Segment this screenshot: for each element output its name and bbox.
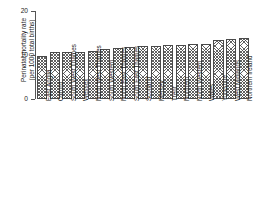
x-axis-tick-label: South East Thames <box>133 46 140 101</box>
y-axis-tick <box>31 11 35 12</box>
y-axis-tick-label: 10 <box>14 51 28 58</box>
x-axis-tick-label: North West Thames <box>95 45 102 101</box>
x-axis-tick-label: Northern Ireland <box>246 55 253 101</box>
x-axis-tick-label: South Western <box>108 59 115 101</box>
x-axis-tick-label: Wessex <box>82 79 89 101</box>
x-axis-tick-label: Northern <box>183 77 190 102</box>
bars-group <box>36 8 250 99</box>
x-axis-tick-label: Trent <box>171 87 178 101</box>
x-axis-tick-label: North Western <box>196 61 203 101</box>
x-axis-tick-label: Wales <box>208 84 215 101</box>
y-axis-tick <box>31 55 35 56</box>
x-axis-tick-label: Scotland <box>145 76 152 101</box>
y-axis-tick-label: 20 <box>14 7 28 14</box>
y-axis-tick <box>31 99 35 100</box>
x-axis-tick-labels: East AngliaOxfordSouth West ThamesWessex… <box>36 101 250 201</box>
x-axis-tick-label: North East Thames <box>120 47 127 101</box>
x-axis-tick-label: West Midlands <box>234 60 241 101</box>
x-axis-tick-label: Oxford <box>57 82 64 101</box>
y-axis-tick-label: 0 <box>14 95 28 102</box>
bar-chart: Perinatal mortality rate (per 1000 total… <box>0 0 253 204</box>
x-axis-tick-label: Yorkshire <box>221 75 228 101</box>
x-axis-tick-label: Mersey <box>158 80 165 101</box>
x-axis-tick-label: East Anglia <box>45 69 52 101</box>
y-axis-title-line1: Perinatal mortality rate <box>20 18 27 82</box>
x-axis-tick-label: South West Thames <box>70 44 77 101</box>
